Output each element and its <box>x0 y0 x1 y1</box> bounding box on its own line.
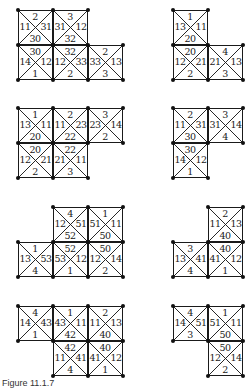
edge-label-left: 53 <box>53 254 67 264</box>
tile-square: 414431 <box>18 306 53 341</box>
vertex-dot <box>121 78 125 82</box>
edge-label-bottom: 3 <box>97 69 113 79</box>
edge-label-left: 11 <box>88 318 102 328</box>
tile-square: 4041121 <box>88 341 123 376</box>
vertex-dot <box>86 205 90 209</box>
vertex-dot <box>171 43 175 47</box>
vertex-dot <box>51 339 55 343</box>
tile-square: 1431142 <box>53 306 88 341</box>
tile-square: 2111340 <box>88 306 123 341</box>
vertex-dot <box>206 106 210 110</box>
tile-square: 421133 <box>208 45 243 80</box>
vertex-dot <box>241 205 245 209</box>
edge-label-bottom: 40 <box>217 231 233 241</box>
edge-label-right: 12 <box>229 254 243 264</box>
edge-label-right: 12 <box>74 22 88 32</box>
tile-square: 2221113 <box>53 143 88 178</box>
edge-label-bottom: 3 <box>182 330 198 340</box>
tile-square: 2113130 <box>18 10 53 45</box>
edge-label-left: 51 <box>88 219 102 229</box>
vertex-dot <box>121 43 125 47</box>
edge-label-left: 12 <box>53 57 67 67</box>
vertex-dot <box>171 339 175 343</box>
edge-label-right: 53 <box>39 254 53 264</box>
edge-label-left: 12 <box>18 155 32 165</box>
edge-label-bottom: 42 <box>62 330 78 340</box>
edge-label-bottom: 2 <box>97 132 113 142</box>
tile-square: 3014121 <box>18 45 53 80</box>
edge-label-bottom: 20 <box>182 34 198 44</box>
vertex-dot <box>206 43 210 47</box>
tile-square: 414513 <box>173 306 208 341</box>
vertex-dot <box>51 275 55 279</box>
vertex-dot <box>16 240 20 244</box>
edge-label-right: 13 <box>229 57 243 67</box>
vertex-dot <box>171 106 175 110</box>
tile-square: 1511150 <box>88 207 123 242</box>
edge-label-bottom: 2 <box>182 69 198 79</box>
edge-label-bottom: 30 <box>27 34 43 44</box>
edge-label-right: 21 <box>39 155 53 165</box>
vertex-dot <box>86 339 90 343</box>
vertex-dot <box>51 8 55 12</box>
edge-label-left: 14 <box>18 318 32 328</box>
vertex-dot <box>51 176 55 180</box>
vertex-dot <box>206 176 210 180</box>
edge-label-bottom: 30 <box>182 132 198 142</box>
vertex-dot <box>171 275 175 279</box>
edge-label-right: 12 <box>194 155 208 165</box>
vertex-dot <box>86 141 90 145</box>
edge-label-left: 21 <box>53 155 67 165</box>
vertex-dot <box>86 176 90 180</box>
edge-label-left: 12 <box>208 353 222 363</box>
vertex-dot <box>206 78 210 82</box>
edge-label-left: 14 <box>18 57 32 67</box>
edge-label-left: 14 <box>173 155 187 165</box>
vertex-dot <box>121 205 125 209</box>
edge-label-right: 11 <box>74 318 88 328</box>
tile-square: 331144 <box>208 108 243 143</box>
edge-label-bottom: 2 <box>97 266 113 276</box>
tile-square: 5012142 <box>88 242 123 277</box>
vertex-dot <box>206 275 210 279</box>
edge-label-right: 31 <box>39 22 53 32</box>
edge-label-right: 11 <box>194 22 208 32</box>
vertex-dot <box>206 8 210 12</box>
vertex-dot <box>86 78 90 82</box>
vertex-dot <box>171 8 175 12</box>
vertex-dot <box>171 240 175 244</box>
edge-label-bottom: 1 <box>27 69 43 79</box>
edge-label-bottom: 2 <box>62 69 78 79</box>
tile-square: 3014121 <box>173 143 208 178</box>
edge-label-right: 12 <box>109 353 123 363</box>
vertex-dot <box>121 275 125 279</box>
edge-label-bottom: 1 <box>182 167 198 177</box>
edge-label-bottom: 3 <box>217 69 233 79</box>
tile-square: 4125152 <box>53 207 88 242</box>
tile-square: 313414 <box>173 242 208 277</box>
vertex-dot <box>16 304 20 308</box>
vertex-dot <box>171 304 175 308</box>
tile-square: 3311232 <box>53 10 88 45</box>
edge-label-left: 23 <box>88 120 102 130</box>
edge-label-bottom: 2 <box>217 365 233 375</box>
edge-label-left: 21 <box>208 57 222 67</box>
edge-label-bottom: 22 <box>62 132 78 142</box>
vertex-dot <box>241 304 245 308</box>
vertex-dot <box>171 141 175 145</box>
vertex-dot <box>206 304 210 308</box>
vertex-dot <box>206 205 210 209</box>
edge-label-bottom: 3 <box>62 167 78 177</box>
vertex-dot <box>206 374 210 378</box>
tile-square: 2113130 <box>173 108 208 143</box>
vertex-dot <box>171 78 175 82</box>
edge-label-right: 31 <box>194 120 208 130</box>
vertex-dot <box>51 205 55 209</box>
vertex-dot <box>16 275 20 279</box>
edge-label-right: 12 <box>74 254 88 264</box>
tile-square: 5253121 <box>53 242 88 277</box>
vertex-dot <box>51 141 55 145</box>
tile-square: 323142 <box>88 108 123 143</box>
edge-label-left: 11 <box>53 120 67 130</box>
edge-label-right: 11 <box>39 120 53 130</box>
